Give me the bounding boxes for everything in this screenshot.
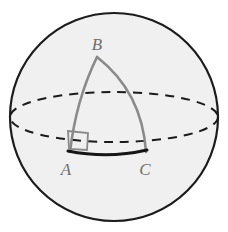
figure-root: A B C bbox=[0, 0, 228, 232]
vertex-label-A: A bbox=[60, 160, 72, 179]
vertex-label-B: B bbox=[92, 35, 103, 54]
vertex-label-C: C bbox=[139, 160, 151, 179]
spherical-triangle-figure: A B C bbox=[0, 0, 228, 232]
